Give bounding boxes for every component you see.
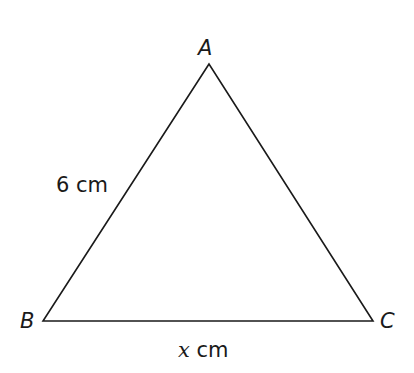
side-bc-variable: x	[178, 338, 190, 362]
vertex-label-c: C	[380, 311, 395, 332]
triangle-diagram: A B C 6 cm x cm	[0, 0, 414, 373]
side-ab-length-label: 6 cm	[56, 175, 108, 196]
side-bc-unit: cm	[197, 338, 229, 362]
side-bc-length-label: x cm	[178, 340, 229, 361]
vertex-label-a: A	[198, 38, 212, 59]
vertex-label-b: B	[20, 311, 34, 332]
